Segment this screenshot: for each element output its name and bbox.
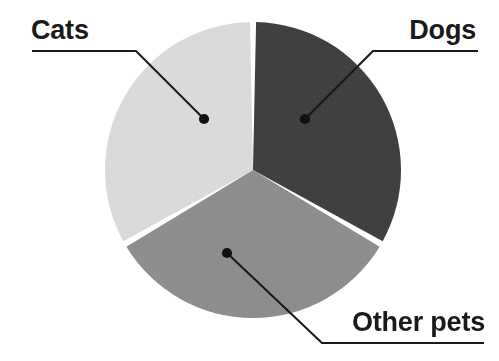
pie-label-other-pets: Other pets [352,309,485,336]
pie-label-cats: Cats [31,17,89,44]
callout-dot-cats [199,114,209,124]
callout-dot-other-pets [222,248,232,258]
pie-chart-figure: Cats Dogs Other pets [0,0,499,361]
pie-label-dogs: Dogs [409,17,476,44]
callout-dot-dogs [300,114,310,124]
